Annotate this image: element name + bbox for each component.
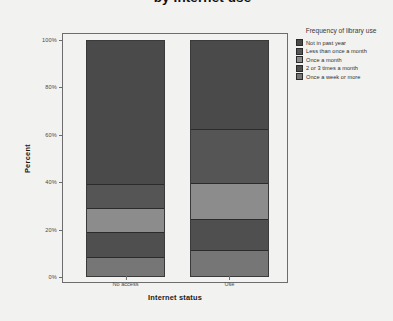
legend-swatch-icon bbox=[296, 73, 303, 80]
legend-swatch-icon bbox=[296, 56, 303, 63]
x-tick-label: No access bbox=[112, 281, 138, 287]
bar-segment[interactable] bbox=[191, 41, 268, 130]
bar-segment[interactable] bbox=[87, 233, 164, 257]
legend: Frequency of library use Not in past yea… bbox=[296, 27, 390, 82]
legend-item-label: Not in past year bbox=[306, 40, 346, 46]
legend-item-label: 2 or 3 times a month bbox=[306, 65, 358, 71]
chart-title: by Internet use bbox=[0, 0, 393, 5]
bar-segment[interactable] bbox=[87, 41, 164, 185]
bar-segment[interactable] bbox=[87, 185, 164, 209]
bar-segment[interactable] bbox=[87, 209, 164, 233]
legend-item[interactable]: Less than once a month bbox=[296, 48, 390, 55]
bar-segment[interactable] bbox=[191, 130, 268, 184]
legend-item-label: Once a week or more bbox=[306, 74, 360, 80]
legend-item[interactable]: Once a week or more bbox=[296, 73, 390, 80]
legend-swatch-icon bbox=[296, 39, 303, 46]
legend-title: Frequency of library use bbox=[296, 27, 390, 35]
bar-segment[interactable] bbox=[191, 184, 268, 220]
bar-segment[interactable] bbox=[87, 258, 164, 276]
x-tick-label: Use bbox=[225, 281, 235, 287]
y-axis-label-text: Percent bbox=[24, 144, 33, 173]
legend-items: Not in past yearLess than once a monthOn… bbox=[296, 39, 390, 80]
y-axis-label: Percent bbox=[22, 40, 34, 277]
stacked-bar[interactable] bbox=[190, 40, 269, 277]
bar-segment[interactable] bbox=[191, 220, 268, 251]
bar-segment[interactable] bbox=[191, 251, 268, 276]
chart-figure: by Internet use Percent 0%20%40%60%80%10… bbox=[0, 0, 393, 321]
y-tick-label: 60% bbox=[45, 132, 62, 138]
y-tick-label: 20% bbox=[45, 227, 62, 233]
stacked-bar[interactable] bbox=[86, 40, 165, 277]
legend-item-label: Once a month bbox=[306, 57, 342, 63]
legend-item[interactable]: 2 or 3 times a month bbox=[296, 65, 390, 72]
y-tick-label: 0% bbox=[49, 274, 63, 280]
y-tick-label: 80% bbox=[45, 84, 62, 90]
y-tick-label: 100% bbox=[42, 37, 62, 43]
legend-item-label: Less than once a month bbox=[306, 48, 367, 54]
legend-swatch-icon bbox=[296, 48, 303, 55]
legend-swatch-icon bbox=[296, 65, 303, 72]
plot-area: 0%20%40%60%80%100% bbox=[62, 40, 288, 277]
legend-item[interactable]: Not in past year bbox=[296, 39, 390, 46]
legend-item[interactable]: Once a month bbox=[296, 56, 390, 63]
x-axis-label: Internet status bbox=[62, 293, 288, 302]
y-tick-label: 40% bbox=[45, 179, 62, 185]
